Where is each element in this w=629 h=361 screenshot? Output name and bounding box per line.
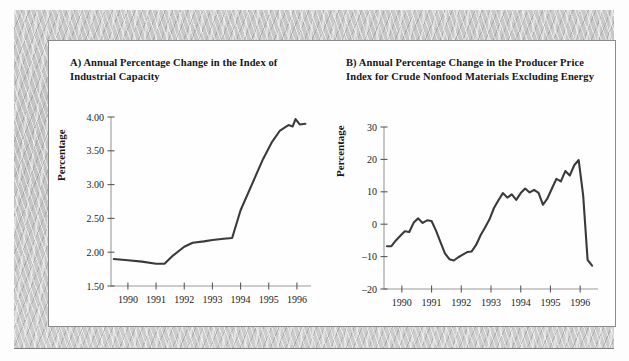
x-tick-label: 1991 (146, 294, 166, 305)
x-tick-label: 1990 (118, 294, 138, 305)
chart-a: A) Annual Percentage Change in the Index… (49, 41, 332, 326)
x-tick-label: 1993 (202, 294, 222, 305)
y-tick-label: 0 (372, 219, 377, 230)
y-tick-label: 1.50 (87, 281, 105, 292)
chart-a-svg: 1.502.002.503.003.504.001990199119921993… (67, 111, 319, 316)
y-tick-label: 10 (367, 186, 377, 197)
x-tick-label: 1992 (174, 294, 194, 305)
x-tick-label: 1993 (481, 297, 501, 308)
chart-a-y-axis-label: Percentage (55, 129, 67, 181)
x-tick-label: 1996 (570, 297, 590, 308)
x-tick-label: 1990 (392, 297, 412, 308)
chart-a-plot: 1.502.002.503.003.504.001990199119921993… (67, 111, 319, 316)
chart-b: B) Annual Percentage Change in the Produ… (332, 41, 615, 326)
x-tick-label: 1994 (231, 294, 251, 305)
chart-b-title: B) Annual Percentage Change in the Produ… (346, 56, 604, 84)
chart-a-title: A) Annual Percentage Change in the Index… (70, 56, 320, 84)
y-tick-label: 30 (367, 122, 377, 133)
figure-root: A) Annual Percentage Change in the Index… (0, 0, 629, 361)
y-tick-label: 2.50 (87, 213, 105, 224)
y-tick-label: 3.50 (87, 145, 105, 156)
data-line (114, 119, 306, 264)
x-tick-label: 1995 (259, 294, 279, 305)
chart-b-svg: –20–100102030199019911992199319941995199… (344, 121, 606, 317)
x-tick-label: 1994 (511, 297, 531, 308)
y-tick-label: 2.00 (87, 247, 105, 258)
y-tick-label: –10 (361, 251, 377, 262)
x-tick-label: 1995 (540, 297, 560, 308)
chart-b-plot: –20–100102030199019911992199319941995199… (344, 121, 606, 317)
figure-frame: A) Annual Percentage Change in the Index… (14, 10, 614, 349)
x-tick-label: 1991 (422, 297, 442, 308)
y-tick-label: 20 (367, 154, 377, 165)
y-tick-label: –20 (361, 284, 377, 295)
axis-lines (384, 127, 598, 289)
x-tick-label: 1996 (287, 294, 307, 305)
data-line (387, 160, 592, 266)
figure-panel: A) Annual Percentage Change in the Index… (48, 40, 616, 327)
y-tick-label: 3.00 (87, 179, 105, 190)
x-tick-label: 1992 (451, 297, 471, 308)
y-tick-label: 4.00 (87, 112, 105, 123)
